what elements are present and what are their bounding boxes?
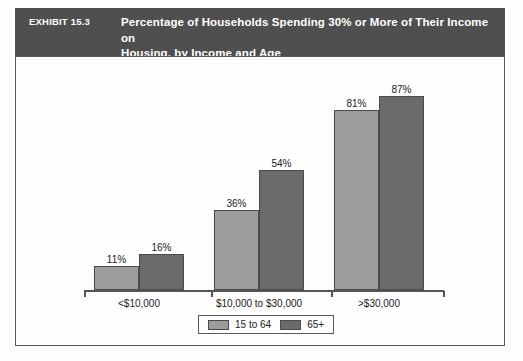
chart-legend: 15 to 64 65+ (198, 315, 334, 334)
bar-value-label: 16% (151, 242, 171, 253)
exhibit-title: Percentage of Households Spending 30% or… (121, 15, 491, 62)
bar-15-to-64-income-3[interactable]: 81% (334, 110, 379, 290)
exhibit-title-line-1: Percentage of Households Spending 30% or… (121, 16, 488, 44)
legend-label-15-to-64: 15 to 64 (235, 319, 271, 330)
legend-swatch-icon-15-to-64 (208, 320, 229, 330)
legend-entry-65-plus[interactable]: 65+ (280, 319, 324, 330)
x-axis-category-label-3: >$30,000 (358, 298, 400, 309)
bar-65-plus-income-1[interactable]: 16% (139, 254, 184, 290)
legend-entry-15-to-64[interactable]: 15 to 64 (208, 319, 271, 330)
x-axis-tick-divider-2 (331, 291, 333, 297)
header-row: EXHIBIT 15.3 Percentage of Households Sp… (29, 15, 491, 62)
bar-value-label: 81% (346, 98, 366, 109)
x-axis-baseline (84, 290, 444, 292)
bar-15-to-64-income-1[interactable]: 11% (94, 266, 139, 291)
x-axis-tick-start (84, 291, 86, 297)
bar-value-label: 54% (271, 158, 291, 169)
legend-label-65-plus: 65+ (307, 319, 324, 330)
chart-frame: 11% 16% 36% 54% 81% (15, 56, 505, 346)
bar-value-label: 11% (107, 254, 126, 265)
bar-value-label: 87% (391, 84, 411, 95)
bar-group-income-2: 36% 54% (214, 94, 304, 290)
bar-value-label: 36% (226, 198, 246, 209)
x-axis-tick-end (443, 291, 445, 297)
bar-group-income-3: 81% 87% (334, 94, 424, 290)
x-axis-category-label-2: $10,000 to $30,000 (216, 298, 302, 309)
bar-15-to-64-income-2[interactable]: 36% (214, 210, 259, 290)
exhibit-header-band: EXHIBIT 15.3 Percentage of Households Sp… (15, 8, 505, 56)
bar-65-plus-income-2[interactable]: 54% (259, 170, 304, 290)
bar-chart-plot-area: 11% 16% 36% 54% 81% (16, 57, 506, 347)
bar-65-plus-income-3[interactable]: 87% (379, 96, 424, 290)
x-axis-category-label-1: <$10,000 (118, 298, 160, 309)
x-axis-tick-divider-1 (211, 291, 213, 297)
legend-swatch-icon-65-plus (280, 320, 301, 330)
exhibit-figure: EXHIBIT 15.3 Percentage of Households Sp… (0, 0, 523, 361)
bar-group-income-1: 11% 16% (94, 94, 184, 290)
exhibit-number-label: EXHIBIT 15.3 (29, 15, 121, 27)
